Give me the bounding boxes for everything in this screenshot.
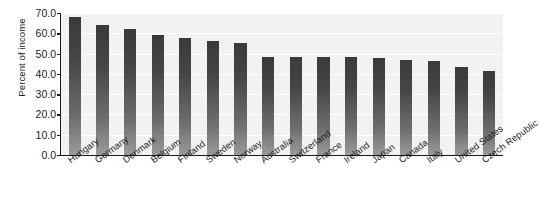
y-axis-tick-label: 20.0 (20, 109, 56, 120)
y-axis-tick-label: 40.0 (20, 69, 56, 80)
bar (96, 25, 108, 155)
y-axis-tick-label: 60.0 (20, 28, 56, 39)
bar (455, 67, 467, 155)
bar (400, 60, 412, 155)
bar-series (61, 13, 503, 155)
bar (428, 61, 440, 155)
y-axis-tick-labels: 70.060.050.040.030.020.010.00.0 (20, 10, 56, 160)
bar (207, 41, 219, 155)
y-axis-tick-label: 10.0 (20, 129, 56, 140)
bar (234, 43, 246, 155)
bar (373, 58, 385, 155)
y-axis-tick-label: 0.0 (20, 150, 56, 161)
x-axis-category-labels: HungaryGermanyDenmarkBelgiumFinlandSwede… (60, 157, 512, 219)
plot-area (60, 13, 503, 156)
bar (262, 57, 274, 155)
y-axis-tick-label: 50.0 (20, 48, 56, 59)
y-axis-tick-label: 70.0 (20, 8, 56, 19)
bar (345, 57, 357, 155)
y-axis-tick-label: 30.0 (20, 89, 56, 100)
bar (69, 17, 81, 155)
bar (179, 38, 191, 155)
